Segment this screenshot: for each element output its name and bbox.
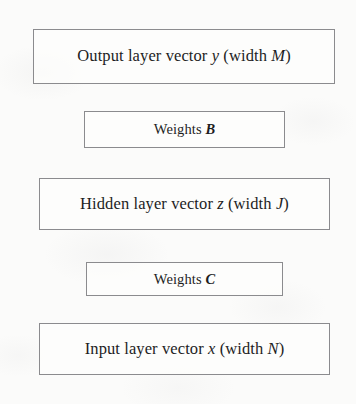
output-layer-suffix: ) [285,46,291,65]
input-layer-middle: (width [215,339,267,358]
block-weights-b-label: Weights B [154,122,215,137]
block-input-layer-label: Input layer vector x (width N) [85,341,285,358]
hidden-layer-prefix: Hidden layer vector [80,194,217,213]
block-input-layer: Input layer vector x (width N) [39,323,330,375]
hidden-layer-middle: (width [224,194,276,213]
output-layer-prefix: Output layer vector [77,46,211,65]
weights-c-prefix: Weights [154,271,206,287]
block-output-layer: Output layer vector y (width M) [33,29,335,84]
weights-b-variable: B [205,121,215,137]
weights-b-prefix: Weights [154,121,206,137]
weights-c-variable: C [205,271,215,287]
block-weights-b: Weights B [84,111,285,148]
block-hidden-layer-label: Hidden layer vector z (width J) [80,196,289,213]
block-output-layer-label: Output layer vector y (width M) [77,48,290,65]
output-layer-dimension: M [271,46,285,65]
hidden-layer-suffix: ) [283,194,289,213]
block-weights-c-label: Weights C [154,272,215,287]
input-layer-dimension: N [268,339,279,358]
input-layer-suffix: ) [279,339,285,358]
output-layer-variable: y [212,46,219,65]
input-layer-prefix: Input layer vector [85,339,208,358]
diagram-canvas: Output layer vector y (width M) Weights … [0,0,356,404]
block-hidden-layer: Hidden layer vector z (width J) [39,178,330,230]
output-layer-middle: (width [219,46,271,65]
block-weights-c: Weights C [86,262,283,296]
